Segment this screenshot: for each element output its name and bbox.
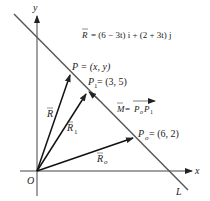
svg-text:M: M xyxy=(116,104,125,114)
svg-text:P: P xyxy=(133,104,140,114)
vector-Ro xyxy=(37,138,133,171)
svg-text:1: 1 xyxy=(150,109,153,115)
point-P1-label: P 1 = (3, 5) xyxy=(87,76,127,90)
line-equation: R = (6 − 3t) i + (2 + 3t) j xyxy=(81,29,172,40)
origin-label: O xyxy=(27,175,34,186)
vector-R1 xyxy=(37,94,86,171)
vector-line-diagram: y x O L R = (6 − 3t) i + (2 + 3t) j R R … xyxy=(0,0,210,201)
direction-vector-label: M = P o P 1 xyxy=(116,101,155,115)
svg-text:= (6, 2): = (6, 2) xyxy=(149,128,179,140)
svg-text:o: o xyxy=(104,158,108,166)
svg-text:P: P xyxy=(143,104,150,114)
svg-text:= (3, 5): = (3, 5) xyxy=(97,76,127,88)
svg-text:R: R xyxy=(96,153,103,164)
svg-text:= (6 − 3t) i + (2 + 3t) j: = (6 − 3t) i + (2 + 3t) j xyxy=(91,30,172,40)
x-axis-label: x xyxy=(194,165,200,176)
line-L-label: L xyxy=(175,186,182,197)
point-Po-label: P o = (6, 2) xyxy=(137,128,179,142)
svg-text:o: o xyxy=(140,109,143,115)
svg-text:=: = xyxy=(125,104,130,114)
y-axis-label: y xyxy=(32,2,38,13)
vector-M xyxy=(89,92,100,101)
svg-text:P: P xyxy=(137,128,144,139)
vector-R xyxy=(37,75,70,171)
svg-text:1: 1 xyxy=(74,128,78,136)
vector-R1-label: R 1 xyxy=(66,122,78,136)
point-P-label: P = (x, y) xyxy=(71,61,111,73)
svg-text:R: R xyxy=(66,122,73,133)
vector-Ro-label: R o xyxy=(96,153,108,166)
svg-text:R: R xyxy=(81,30,88,40)
vector-R-label: R xyxy=(46,108,53,119)
